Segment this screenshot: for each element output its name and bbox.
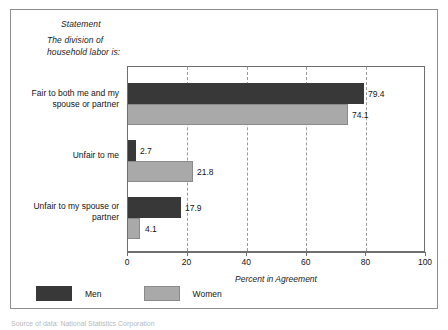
category-label-unfair-spouse: Unfair to my spouse or partner: [9, 201, 119, 222]
x-tick-label-100: 100: [418, 257, 432, 267]
legend-item-women: Women: [144, 286, 222, 301]
x-axis-line: [127, 252, 426, 253]
legend-swatch-men-icon: [36, 286, 72, 301]
bar-value-women-unfair-me: 21.8: [197, 167, 214, 177]
bar-men-unfair-spouse: [128, 197, 181, 218]
x-tick-80: [365, 252, 366, 256]
category-label-unfair-me-line1: Unfair to me: [9, 150, 119, 161]
chart-legend: Men Women: [36, 286, 222, 301]
legend-label-women: Women: [193, 289, 222, 299]
bar-value-men-fair: 79.4: [368, 89, 385, 99]
statement-line-1: The division of: [47, 35, 217, 45]
bar-value-men-unfair-me: 2.7: [140, 146, 152, 156]
bar-value-men-unfair-spouse: 17.9: [185, 203, 202, 213]
bar-value-women-fair: 74.1: [352, 110, 369, 120]
gridline-80: [366, 67, 367, 251]
category-label-fair-line2: spouse or partner: [9, 99, 119, 110]
chart-figure: Statement The division of household labo…: [0, 0, 448, 330]
bar-women-unfair-spouse: [128, 218, 140, 239]
category-label-unfair-spouse-line2: partner: [9, 212, 119, 223]
category-label-unfair-spouse-line1: Unfair to my spouse or: [9, 201, 119, 212]
legend-swatch-women-icon: [144, 286, 180, 301]
category-label-unfair-me: Unfair to me: [9, 150, 119, 161]
x-tick-label-60: 60: [301, 257, 310, 267]
bar-value-women-unfair-spouse: 4.1: [145, 224, 157, 234]
bar-women-unfair-me: [128, 161, 193, 182]
statement-line-2: household labor is:: [47, 47, 217, 57]
statement-heading: Statement: [61, 19, 217, 29]
category-label-fair: Fair to both me and my spouse or partner: [9, 88, 119, 109]
x-tick-40: [246, 252, 247, 256]
bar-men-fair: [128, 83, 364, 104]
legend-label-men: Men: [85, 289, 102, 299]
x-tick-label-0: 0: [125, 257, 130, 267]
source-note: Source of data: National Statistics Corp…: [11, 320, 155, 327]
plot-area: 79.4 74.1 2.7 21.8 17.9 4.1: [127, 66, 425, 252]
x-tick-label-80: 80: [361, 257, 370, 267]
x-tick-20: [187, 252, 188, 256]
x-tick-100: [425, 252, 426, 256]
legend-item-men: Men: [36, 286, 102, 301]
category-label-fair-line1: Fair to both me and my: [9, 88, 119, 99]
x-axis-title: Percent in Agreement: [127, 274, 425, 284]
bar-women-fair: [128, 104, 348, 125]
x-tick-label-40: 40: [241, 257, 250, 267]
x-tick-60: [306, 252, 307, 256]
x-tick-0: [127, 252, 128, 256]
bar-men-unfair-me: [128, 140, 136, 161]
x-tick-label-20: 20: [182, 257, 191, 267]
statement-block: Statement The division of household labo…: [47, 19, 217, 57]
